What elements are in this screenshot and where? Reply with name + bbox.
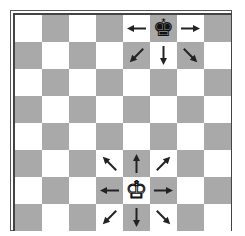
square-a6 [15,69,42,96]
arrow-up-icon [123,150,150,177]
square-e1 [123,204,150,231]
square-d7 [96,42,123,69]
square-e2: ♔ [123,177,150,204]
square-f4 [150,123,177,150]
square-c2 [69,177,96,204]
square-b7 [42,42,69,69]
square-f6 [150,69,177,96]
square-f3 [150,150,177,177]
square-g7 [177,42,204,69]
square-g1 [177,204,204,231]
square-a2 [15,177,42,204]
square-e6 [123,69,150,96]
square-h8 [204,15,231,42]
square-c1 [69,204,96,231]
arrow-up-right-icon [150,150,177,177]
square-c8 [69,15,96,42]
square-f1 [150,204,177,231]
arrow-up-left-icon [96,150,123,177]
square-d4 [96,123,123,150]
square-c7 [69,42,96,69]
white-king-icon: ♔ [123,177,150,204]
square-a4 [15,123,42,150]
square-c4 [69,123,96,150]
arrow-right-icon [150,177,177,204]
square-a8 [15,15,42,42]
square-b3 [42,150,69,177]
square-g5 [177,96,204,123]
square-g3 [177,150,204,177]
arrow-down-left-icon [123,42,150,69]
square-b4 [42,123,69,150]
square-g2 [177,177,204,204]
square-f2 [150,177,177,204]
square-b2 [42,177,69,204]
square-d5 [96,96,123,123]
square-c3 [69,150,96,177]
square-g4 [177,123,204,150]
arrow-down-icon [150,42,177,69]
square-e5 [123,96,150,123]
square-c6 [69,69,96,96]
square-a5 [15,96,42,123]
square-f8: ♚ [150,15,177,42]
square-f5 [150,96,177,123]
square-h4 [204,123,231,150]
square-b1 [42,204,69,231]
square-g8 [177,15,204,42]
chess-board: ♚♔ [15,15,231,231]
square-e4 [123,123,150,150]
square-b6 [42,69,69,96]
square-d1 [96,204,123,231]
arrow-down-left-icon [96,204,123,231]
square-h1 [204,204,231,231]
square-b8 [42,15,69,42]
square-e7 [123,42,150,69]
square-h2 [204,177,231,204]
square-d6 [96,69,123,96]
square-g6 [177,69,204,96]
square-d2 [96,177,123,204]
square-e3 [123,150,150,177]
square-h3 [204,150,231,177]
square-a7 [15,42,42,69]
square-b5 [42,96,69,123]
square-d3 [96,150,123,177]
square-e8 [123,15,150,42]
arrow-down-right-icon [177,42,204,69]
arrow-left-icon [96,177,123,204]
square-h5 [204,96,231,123]
square-a1 [15,204,42,231]
square-c5 [69,96,96,123]
arrow-left-icon [123,15,150,42]
arrow-right-icon [177,15,204,42]
square-h6 [204,69,231,96]
square-a3 [15,150,42,177]
square-d8 [96,15,123,42]
arrow-down-right-icon [150,204,177,231]
black-king-icon: ♚ [150,15,177,42]
square-f7 [150,42,177,69]
square-h7 [204,42,231,69]
arrow-down-icon [123,204,150,231]
